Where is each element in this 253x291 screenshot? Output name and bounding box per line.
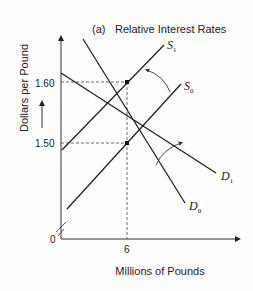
origin-label: 0	[50, 234, 56, 245]
label-d0: D0	[188, 199, 202, 215]
supply-curve-s0	[67, 84, 181, 209]
panel-label: (a)	[92, 23, 105, 35]
supply-shift-arrow-icon	[147, 70, 170, 92]
supply-curve-s1	[62, 45, 164, 150]
chart-title: Relative Interest Rates	[115, 23, 227, 35]
label-d1: D1	[220, 169, 234, 185]
y-axis-label: Dollars per Pound	[18, 44, 30, 132]
label-s1: S1	[167, 38, 177, 54]
demand-curve-d0	[83, 39, 185, 203]
equilibrium-point-low	[125, 141, 129, 145]
x-tick-6: 6	[124, 244, 130, 255]
label-s0: S0	[184, 79, 194, 95]
y-tick-1-50: 1.50	[35, 138, 55, 149]
chart-svg: (a) Relative Interest Rates S1 S0 D1 D0 …	[0, 0, 253, 291]
y-tick-1-60: 1.60	[35, 78, 55, 89]
equilibrium-point-high	[125, 80, 129, 84]
chart-container: (a) Relative Interest Rates S1 S0 D1 D0 …	[0, 0, 253, 291]
x-axis-label: Millions of Pounds	[115, 265, 205, 277]
